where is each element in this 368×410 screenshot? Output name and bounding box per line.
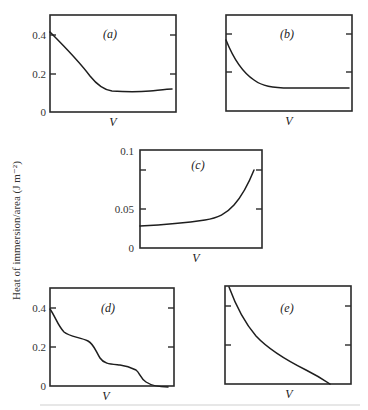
panel-d-ytick-0.4: 0.4 <box>32 302 46 314</box>
panel-d-curve <box>50 309 168 387</box>
panel-a-label: (a) <box>103 27 117 41</box>
panel-c-xlabel: V <box>192 251 201 265</box>
panel-b-label: (b) <box>280 27 294 41</box>
panel-c-curve <box>140 170 254 226</box>
panel-c-ytick-0: 0 <box>129 242 135 254</box>
panel-d-label: (d) <box>101 301 115 315</box>
y-axis-label: Heat of immersion/area (J m⁻²) <box>10 161 23 300</box>
panel-c-label: (c) <box>191 158 204 172</box>
panel-a-ytick-0: 0 <box>41 106 47 118</box>
bleed-through <box>40 404 360 406</box>
panel-e-label: (e) <box>280 301 293 315</box>
panel-c: 0.1 0.05 0 (c) V <box>115 145 262 265</box>
panel-c-ytick-0.1: 0.1 <box>120 145 134 157</box>
panel-b: (b) V <box>226 15 352 128</box>
panel-d-xlabel: V <box>102 389 111 403</box>
panel-b-curve <box>226 40 349 88</box>
panel-a-ytick-0.2: 0.2 <box>32 68 46 80</box>
panel-b-xlabel: V <box>285 114 294 128</box>
panel-c-ytick-0.05: 0.05 <box>115 203 135 215</box>
figure: Heat of immersion/area (J m⁻²) 0.4 0.2 0… <box>0 0 368 410</box>
panel-a-ytick-0.4: 0.4 <box>32 29 46 41</box>
panel-e: (e) V <box>225 286 351 401</box>
panel-d-ytick-0.2: 0.2 <box>32 341 46 353</box>
panel-a: 0.4 0.2 0 (a) V <box>32 15 176 129</box>
panel-d: 0.4 0.2 0 (d) V <box>32 288 174 403</box>
panel-e-xlabel: V <box>285 387 294 401</box>
panel-d-ytick-0: 0 <box>41 380 47 392</box>
panel-a-xlabel: V <box>109 115 118 129</box>
